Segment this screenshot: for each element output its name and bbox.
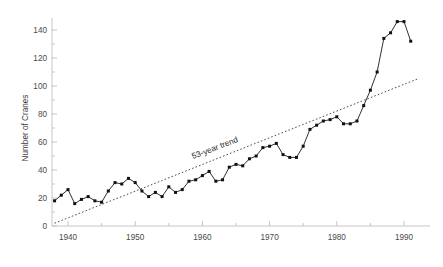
data-point <box>355 120 358 123</box>
data-point <box>322 120 325 123</box>
data-point <box>214 180 217 183</box>
x-tick-label: 1970 <box>260 233 279 242</box>
x-axis: 194019501960197019801990 <box>52 221 430 242</box>
x-tick-label: 1950 <box>126 233 145 242</box>
data-point <box>154 191 157 194</box>
data-point <box>73 202 76 205</box>
chart-canvas: 020406080100120140 Number of Cranes 1940… <box>0 0 443 267</box>
data-point <box>248 157 251 160</box>
y-axis-title: Number of Cranes <box>21 95 30 162</box>
data-point <box>114 181 117 184</box>
data-point <box>107 190 110 193</box>
data-point <box>187 180 190 183</box>
trend-annotation-label: 53-year trend <box>191 135 240 161</box>
x-tick-label: 1980 <box>328 233 347 242</box>
data-point <box>376 71 379 74</box>
data-point <box>308 128 311 131</box>
data-point <box>349 122 352 125</box>
data-point <box>174 191 177 194</box>
data-point <box>221 178 224 181</box>
data-point <box>261 146 264 149</box>
data-point <box>409 40 412 43</box>
data-point <box>161 195 164 198</box>
data-point <box>80 198 83 201</box>
data-point <box>60 194 63 197</box>
data-point <box>147 195 150 198</box>
y-tick-label: 40 <box>38 166 48 175</box>
data-point <box>342 122 345 125</box>
x-tick-label: 1940 <box>59 233 78 242</box>
data-point <box>167 185 170 188</box>
data-point <box>93 199 96 202</box>
x-tick-label: 1990 <box>395 233 414 242</box>
data-point <box>335 115 338 118</box>
x-tick-label-group: 194019501960197019801990 <box>59 233 414 242</box>
data-point <box>282 153 285 156</box>
data-point <box>127 177 130 180</box>
y-tick-label: 60 <box>38 138 48 147</box>
data-point <box>295 156 298 159</box>
data-point <box>228 166 231 169</box>
data-point <box>288 156 291 159</box>
data-point <box>235 163 238 166</box>
data-point <box>181 188 184 191</box>
data-point <box>382 37 385 40</box>
data-point <box>140 190 143 193</box>
data-point <box>87 195 90 198</box>
data-point <box>53 199 56 202</box>
data-point <box>67 188 70 191</box>
series-line-cranes <box>55 22 411 204</box>
data-point <box>100 201 103 204</box>
y-tick-label: 20 <box>38 194 48 203</box>
data-point <box>208 170 211 173</box>
data-point <box>268 145 271 148</box>
data-point <box>201 174 204 177</box>
y-tick-group <box>52 30 57 226</box>
y-tick-label: 100 <box>33 82 47 91</box>
y-tick-label: 120 <box>33 54 47 63</box>
data-point <box>396 20 399 23</box>
chart-figure: 020406080100120140 Number of Cranes 1940… <box>0 0 443 267</box>
annotation-group: 53-year trend <box>191 135 240 161</box>
data-point <box>120 183 123 186</box>
data-point <box>329 118 332 121</box>
y-tick-label-group: 020406080100120140 <box>33 26 47 231</box>
y-tick-label: 80 <box>38 110 48 119</box>
y-axis: 020406080100120140 Number of Cranes <box>21 18 57 231</box>
data-point <box>302 145 305 148</box>
data-point <box>389 31 392 34</box>
data-point <box>369 89 372 92</box>
data-point <box>315 124 318 127</box>
data-point <box>134 181 137 184</box>
data-point <box>255 155 258 158</box>
trend-line <box>55 79 418 223</box>
data-point <box>194 178 197 181</box>
x-tick-group <box>68 221 404 226</box>
data-series <box>53 20 412 205</box>
data-point <box>403 20 406 23</box>
trend-series <box>55 79 418 223</box>
data-point <box>362 104 365 107</box>
series-marker-group <box>53 20 412 205</box>
y-tick-label: 0 <box>42 222 47 231</box>
y-tick-label: 140 <box>33 26 47 35</box>
x-tick-label: 1960 <box>193 233 212 242</box>
data-point <box>275 142 278 145</box>
data-point <box>241 164 244 167</box>
